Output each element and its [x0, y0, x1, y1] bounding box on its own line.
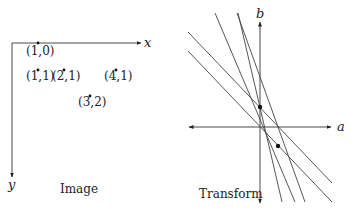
- point-label: (3,2): [78, 95, 106, 109]
- parameter-line: [237, 13, 305, 202]
- y-axis-label: y: [7, 177, 16, 192]
- intersection-dot: [276, 144, 280, 148]
- diagram-svg: x y (1,0) (1,1) (2,1) (4,1) (3,2) Image …: [0, 0, 351, 213]
- point-label: (4,1): [104, 69, 132, 83]
- image-panel: x y (1,0) (1,1) (2,1) (4,1) (3,2) Image: [7, 35, 152, 196]
- image-caption: Image: [60, 182, 98, 196]
- point-label: (1,0): [26, 44, 54, 58]
- a-axis-label: a: [337, 119, 345, 134]
- transform-panel: b a Transform: [188, 6, 345, 203]
- hough-transform-diagram: x y (1,0) (1,1) (2,1) (4,1) (3,2) Image …: [0, 0, 351, 213]
- intersection-dot: [258, 105, 262, 109]
- point-label: (1,1): [26, 69, 54, 83]
- transform-caption: Transform: [199, 187, 263, 201]
- point-label: (2,1): [52, 69, 80, 83]
- parameter-line: [215, 13, 295, 202]
- x-axis-label: x: [144, 35, 152, 50]
- b-axis-label: b: [256, 6, 264, 21]
